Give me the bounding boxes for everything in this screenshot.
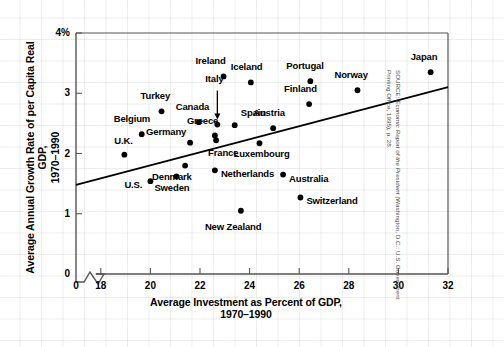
data-point[interactable] — [182, 163, 188, 169]
data-point-label: Austria — [253, 107, 285, 118]
data-point-label: U.S. — [124, 179, 142, 190]
data-point[interactable] — [232, 122, 238, 128]
data-point-label: Sweden — [154, 182, 189, 193]
source-note: SOURCE: Economic Report of the President… — [384, 70, 403, 320]
data-point-label: Canada — [176, 101, 209, 112]
figure-container: 1820222426283032001234% IrelandItalyIcel… — [0, 0, 504, 347]
data-point[interactable] — [121, 152, 127, 158]
data-point-label: France — [208, 147, 238, 158]
data-point[interactable] — [280, 172, 286, 178]
data-point-label: New Zealand — [205, 221, 261, 232]
data-point[interactable] — [257, 140, 263, 146]
data-point[interactable] — [298, 195, 304, 201]
data-point[interactable] — [355, 87, 361, 93]
data-point-label: Finland — [284, 83, 317, 94]
data-point[interactable] — [187, 140, 193, 146]
data-point-label: Iceland — [231, 61, 263, 72]
x-tick-label: 22 — [180, 280, 220, 291]
data-point[interactable] — [139, 131, 145, 137]
y-axis-title: Average Annual Growth Rate of per Capita… — [24, 33, 61, 283]
data-point[interactable] — [248, 80, 254, 86]
data-point[interactable] — [270, 125, 276, 131]
data-point[interactable] — [306, 101, 312, 107]
x-tick-label: 20 — [130, 280, 170, 291]
data-point-label: Belgium — [114, 113, 150, 124]
data-point-label: Greece — [187, 115, 218, 126]
x-origin-label: 0 — [56, 280, 96, 291]
source-title: Economic Report of the President — [395, 100, 402, 194]
source-prefix: SOURCE: — [395, 70, 402, 100]
data-point-label: Germany — [146, 126, 186, 137]
data-point-label: Ireland — [196, 55, 226, 66]
data-point-label: Norway — [334, 69, 367, 80]
data-point-label: U.K. — [114, 135, 132, 146]
data-point-label: Netherlands — [221, 168, 274, 179]
data-point-label: Switzerland — [306, 195, 357, 206]
x-tick-label: 32 — [428, 280, 468, 291]
x-tick-label: 24 — [230, 280, 270, 291]
data-point-label: Denmark — [152, 171, 192, 182]
data-point[interactable] — [238, 208, 244, 214]
data-point[interactable] — [213, 137, 219, 143]
data-point[interactable] — [428, 69, 434, 75]
data-point[interactable] — [212, 167, 218, 173]
x-tick-label: 26 — [279, 280, 319, 291]
data-point[interactable] — [159, 108, 165, 114]
data-point-label: Portugal — [286, 60, 323, 71]
data-point-label: Luxembourg — [234, 148, 290, 159]
x-axis-title: Average Investment as Percent of GDP, 19… — [96, 296, 396, 321]
data-point-label: Italy — [205, 73, 223, 84]
data-point-label: Australia — [289, 173, 328, 184]
x-tick-label: 28 — [329, 280, 369, 291]
data-point-label: Japan — [411, 51, 438, 62]
data-point-label: Turkey — [141, 90, 171, 101]
